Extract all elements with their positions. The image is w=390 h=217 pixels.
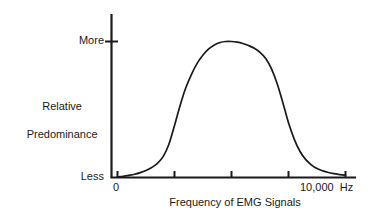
y-axis-title-line-1: Relative bbox=[42, 100, 82, 112]
x-axis-tick-label-zero: 0 bbox=[108, 181, 124, 194]
y-axis-tick-label-more: More bbox=[64, 34, 104, 47]
y-axis-tick-label-less: Less bbox=[64, 170, 104, 183]
x-axis-title: Frequency of EMG Signals bbox=[120, 196, 350, 209]
emg-frequency-chart: More Less Relative Predominance 0 10,000… bbox=[0, 0, 390, 217]
y-axis-title-line-2: Predominance bbox=[27, 128, 98, 140]
y-axis-title: Relative Predominance bbox=[8, 85, 104, 155]
x-axis-tick-label-max: 10,000 Hz bbox=[300, 181, 390, 194]
emg-distribution-curve bbox=[118, 41, 346, 177]
